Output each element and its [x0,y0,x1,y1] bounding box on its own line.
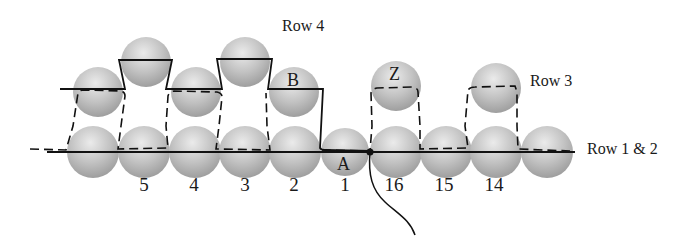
bead [220,37,270,87]
bead-number: 16 [385,174,404,195]
bead-letter-b: B [287,70,299,90]
bead-number: 5 [139,174,149,195]
bead [171,67,221,117]
bead-letter-a: A [337,154,350,174]
row-4-label: Row 4 [282,17,324,34]
bead [471,63,521,113]
bead-number: 2 [289,174,299,195]
bead-number: 3 [240,174,250,195]
bead-number: 15 [435,174,454,195]
bead [121,37,171,87]
bead-letter-z: Z [389,64,400,84]
bead-number: 4 [189,174,199,195]
row-1-2-label: Row 1 & 2 [587,140,658,157]
bead-number: 1 [340,174,350,195]
bead-stitch-diagram: B Z A Row 4 Row 3 Row 1 & 2 5 4 3 2 1 16… [0,0,698,247]
bead-number: 14 [485,174,505,195]
bead-numbers: 5 4 3 2 1 16 15 14 [139,174,504,195]
row-3-label: Row 3 [530,72,572,89]
bead [73,67,123,117]
